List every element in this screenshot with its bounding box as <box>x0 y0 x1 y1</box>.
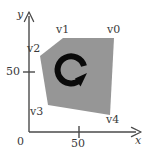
vertex-label-v1: v1 <box>56 24 69 35</box>
vertex-label-v2: v2 <box>27 43 40 54</box>
vertex-label-v4: v4 <box>106 114 119 125</box>
vertex-label-v0: v0 <box>107 24 120 35</box>
gray-pentagon <box>40 38 114 115</box>
vertex-label-v3: v3 <box>30 106 43 117</box>
x-tick-label-50: 50 <box>71 138 85 149</box>
figure-page: { "figure": { "title": "polygon-rotation… <box>0 0 148 154</box>
y-axis-label: y <box>17 9 23 20</box>
y-tick-label-50: 50 <box>6 66 20 77</box>
diagram-canvas <box>0 0 148 154</box>
x-axis-label: x <box>135 135 141 146</box>
origin-label: 0 <box>17 136 24 147</box>
